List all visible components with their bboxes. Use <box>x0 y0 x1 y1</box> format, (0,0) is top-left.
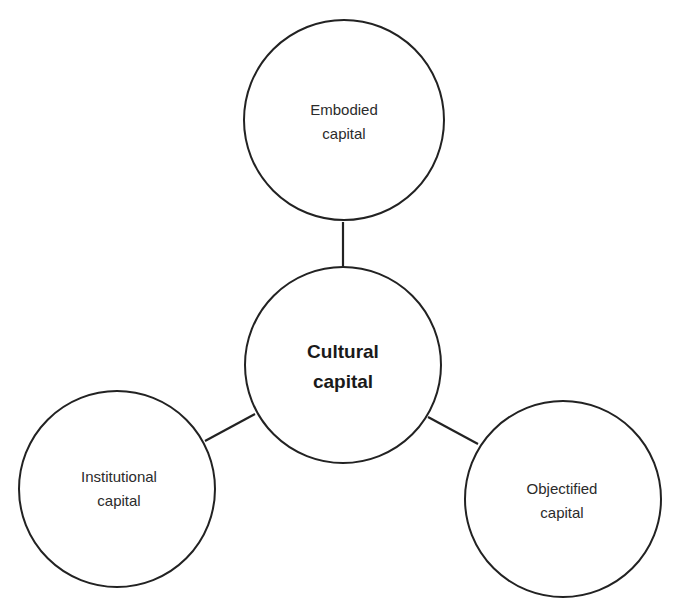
center-label-line-2: capital <box>313 371 373 392</box>
node-institutional-capital: Institutional capital <box>19 391 215 587</box>
edge-center-to-institutional <box>205 414 255 441</box>
node-objectified-capital: Objectified capital <box>465 401 661 597</box>
node-circle <box>245 267 441 463</box>
node-circle <box>465 401 661 597</box>
node-label-line-2: capital <box>97 492 140 509</box>
node-embodied-capital: Embodied capital <box>244 20 444 220</box>
node-label-line-1: Embodied <box>310 101 378 118</box>
edge-center-to-objectified <box>428 417 478 444</box>
cultural-capital-diagram: Embodied capital Cultural capital Instit… <box>0 0 678 602</box>
node-circle <box>244 20 444 220</box>
node-cultural-capital: Cultural capital <box>245 267 441 463</box>
node-label-line-1: Objectified <box>527 480 598 497</box>
node-label-line-2: capital <box>540 504 583 521</box>
node-label-line-1: Institutional <box>81 468 157 485</box>
node-circle <box>19 391 215 587</box>
center-label-line-1: Cultural <box>307 341 379 362</box>
node-label-line-2: capital <box>322 125 365 142</box>
